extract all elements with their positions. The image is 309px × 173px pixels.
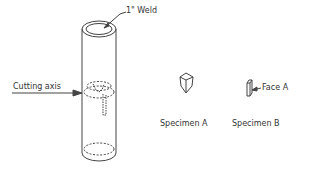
specimen-b-label: Specimen B: [232, 120, 280, 128]
specimen-a-icon: [180, 73, 193, 93]
face-a-leader-arrow: [252, 87, 261, 91]
cutting-axis-label: Cutting axis: [13, 83, 61, 91]
face-a-label: Face A: [262, 84, 288, 92]
weld-label: 1" Weld: [126, 7, 157, 15]
pipe-icon: [82, 21, 116, 161]
specimen-b-icon: [247, 80, 252, 96]
specimen-a-label: Specimen A: [160, 120, 208, 128]
